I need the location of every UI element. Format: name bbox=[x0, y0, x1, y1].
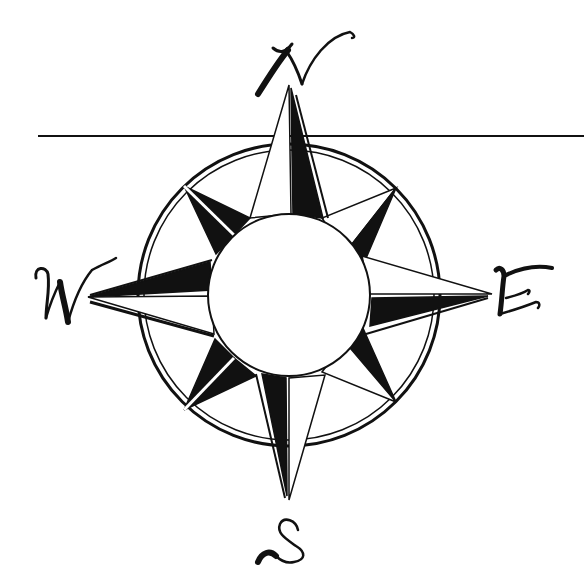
inner-circle bbox=[208, 214, 370, 376]
letter-n bbox=[258, 32, 354, 94]
letter-e bbox=[496, 267, 552, 314]
letter-s bbox=[258, 520, 303, 563]
compass-rose-svg bbox=[0, 0, 584, 584]
compass-rose-figure: N E S W bbox=[0, 0, 584, 584]
